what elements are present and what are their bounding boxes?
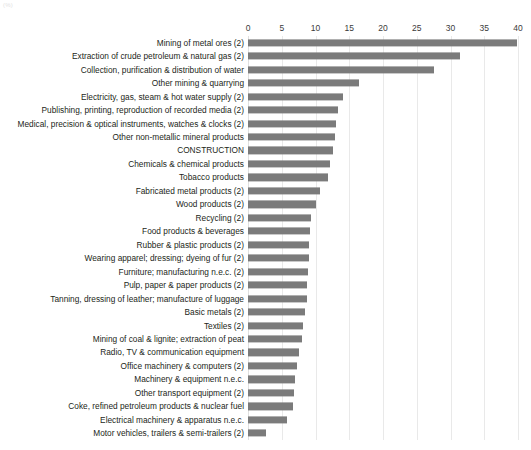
category-label: Extraction of crude petroleum & natural … <box>72 51 244 61</box>
bar-row[interactable]: Electrical machinery & apparatus n.e.c. <box>0 413 531 426</box>
bar[interactable] <box>248 214 311 221</box>
bar-row[interactable]: Rubber & plastic products (2) <box>0 238 531 251</box>
category-label: Mining of coal & lignite; extraction of … <box>93 334 244 344</box>
x-tick-label-40: 40 <box>513 22 522 34</box>
bar[interactable] <box>248 228 310 235</box>
bar[interactable] <box>248 106 338 113</box>
category-label: Tobacco products <box>179 172 244 182</box>
bar[interactable] <box>248 335 302 342</box>
x-tick-label-0: 0 <box>246 22 251 34</box>
bar-row[interactable]: Wood products (2) <box>0 198 531 211</box>
bar[interactable] <box>248 389 294 396</box>
bar-row[interactable]: Mining of metal ores (2) <box>0 36 531 49</box>
bar[interactable] <box>248 201 316 208</box>
bar[interactable] <box>248 241 309 248</box>
bar[interactable] <box>248 376 295 383</box>
bar[interactable] <box>248 349 299 356</box>
corner-note: (%) <box>3 1 13 9</box>
bar-row[interactable]: Recycling (2) <box>0 211 531 224</box>
bar-row[interactable]: Radio, TV & communication equipment <box>0 346 531 359</box>
x-tick-label-15: 15 <box>345 22 354 34</box>
bar[interactable] <box>248 295 307 302</box>
bar-row[interactable]: Extraction of crude petroleum & natural … <box>0 49 531 62</box>
bar-row[interactable]: Motor vehicles, trailers & semi-trailers… <box>0 427 531 440</box>
bar-row[interactable]: Publishing, printing, reproduction of re… <box>0 103 531 116</box>
bar[interactable] <box>248 174 328 181</box>
bar-row[interactable]: Collection, purification & distribution … <box>0 63 531 76</box>
bar[interactable] <box>248 66 434 73</box>
bar-row[interactable]: Mining of coal & lignite; extraction of … <box>0 332 531 345</box>
x-tick-label-10: 10 <box>311 22 320 34</box>
bar-row[interactable]: Machinery & equipment n.e.c. <box>0 373 531 386</box>
category-label: CONSTRUCTION <box>177 145 244 155</box>
bar[interactable] <box>248 39 517 46</box>
category-label: Mining of metal ores (2) <box>157 38 244 48</box>
category-label: Coke, refined petroleum products & nucle… <box>68 401 244 411</box>
bar-rows: Mining of metal ores (2)Extraction of cr… <box>0 36 531 440</box>
bar-chart: (%) 0510152025303540 Mining of metal ore… <box>0 0 531 450</box>
category-label: Furniture; manufacturing n.e.c. (2) <box>119 267 244 277</box>
category-label: Other transport equipment (2) <box>135 388 244 398</box>
bar-row[interactable]: Textiles (2) <box>0 319 531 332</box>
bar[interactable] <box>248 120 336 127</box>
bar[interactable] <box>248 53 460 60</box>
bar-row[interactable]: Office machinery & computers (2) <box>0 359 531 372</box>
bar-row[interactable]: Tobacco products <box>0 171 531 184</box>
category-label: Office machinery & computers (2) <box>121 361 244 371</box>
category-label: Fabricated metal products (2) <box>136 186 244 196</box>
bar[interactable] <box>248 416 287 423</box>
bar-row[interactable]: Other transport equipment (2) <box>0 386 531 399</box>
bar[interactable] <box>248 255 309 262</box>
bar-row[interactable]: Tanning, dressing of leather; manufactur… <box>0 292 531 305</box>
category-label: Medical, precision & optical instruments… <box>18 119 244 129</box>
bar[interactable] <box>248 93 343 100</box>
bar[interactable] <box>248 80 359 87</box>
bar-row[interactable]: CONSTRUCTION <box>0 144 531 157</box>
category-label: Machinery & equipment n.e.c. <box>134 374 244 384</box>
category-label: Electricity, gas, steam & hot water supp… <box>81 92 244 102</box>
x-tick-label-35: 35 <box>480 22 489 34</box>
category-label: Rubber & plastic products (2) <box>137 240 244 250</box>
bar-row[interactable]: Fabricated metal products (2) <box>0 184 531 197</box>
category-label: Wood products (2) <box>176 199 244 209</box>
category-label: Chemicals & chemical products <box>128 159 244 169</box>
bar-row[interactable]: Other mining & quarrying <box>0 76 531 89</box>
category-label: Other mining & quarrying <box>152 78 244 88</box>
bar-row[interactable]: Wearing apparel; dressing; dyeing of fur… <box>0 251 531 264</box>
category-label: Pulp, paper & paper products (2) <box>124 280 244 290</box>
category-label: Motor vehicles, trailers & semi-trailers… <box>93 428 244 438</box>
category-label: Textiles (2) <box>204 321 244 331</box>
bar[interactable] <box>248 147 333 154</box>
bar[interactable] <box>248 187 320 194</box>
x-tick-label-20: 20 <box>378 22 387 34</box>
category-label: Electrical machinery & apparatus n.e.c. <box>100 415 244 425</box>
bar-row[interactable]: Coke, refined petroleum products & nucle… <box>0 400 531 413</box>
bar[interactable] <box>248 268 308 275</box>
bar-row[interactable]: Other non-metallic mineral products <box>0 130 531 143</box>
bar-row[interactable]: Electricity, gas, steam & hot water supp… <box>0 90 531 103</box>
category-label: Other non-metallic mineral products <box>113 132 244 142</box>
bar-row[interactable]: Pulp, paper & paper products (2) <box>0 278 531 291</box>
category-label: Publishing, printing, reproduction of re… <box>42 105 244 115</box>
bar[interactable] <box>248 133 335 140</box>
bar[interactable] <box>248 160 330 167</box>
bar[interactable] <box>248 322 303 329</box>
x-tick-label-25: 25 <box>412 22 421 34</box>
bar-row[interactable]: Food products & beverages <box>0 225 531 238</box>
bar-row[interactable]: Basic metals (2) <box>0 305 531 318</box>
bar[interactable] <box>248 282 307 289</box>
bar-row[interactable]: Chemicals & chemical products <box>0 157 531 170</box>
bar[interactable] <box>248 430 266 437</box>
category-label: Tanning, dressing of leather; manufactur… <box>50 294 244 304</box>
category-label: Food products & beverages <box>142 226 244 236</box>
bar[interactable] <box>248 403 293 410</box>
x-tick-label-30: 30 <box>446 22 455 34</box>
bar[interactable] <box>248 362 297 369</box>
category-label: Basic metals (2) <box>185 307 244 317</box>
category-label: Wearing apparel; dressing; dyeing of fur… <box>85 253 244 263</box>
x-tick-label-5: 5 <box>279 22 284 34</box>
bar[interactable] <box>248 308 305 315</box>
category-label: Collection, purification & distribution … <box>81 65 244 75</box>
bar-row[interactable]: Medical, precision & optical instruments… <box>0 117 531 130</box>
bar-row[interactable]: Furniture; manufacturing n.e.c. (2) <box>0 265 531 278</box>
